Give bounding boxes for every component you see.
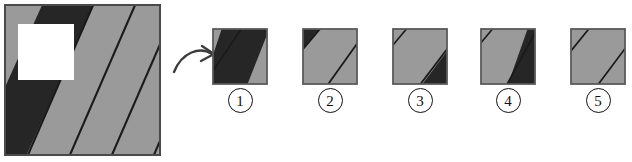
option-5-tile[interactable] xyxy=(570,28,626,85)
option-3-svg xyxy=(392,28,448,85)
option-3[interactable]: 3 xyxy=(392,28,448,85)
main-square-svg xyxy=(4,4,161,156)
option-4-tile[interactable] xyxy=(480,28,536,85)
option-2-tile[interactable] xyxy=(302,28,358,85)
white-cutout xyxy=(18,24,74,80)
pattern-puzzle: 1 2 xyxy=(0,0,632,162)
option-1[interactable]: 1 xyxy=(212,28,268,85)
option-4[interactable]: 4 xyxy=(480,28,536,85)
option-2[interactable]: 2 xyxy=(302,28,358,85)
main-striped-square xyxy=(4,4,161,156)
option-5[interactable]: 5 xyxy=(570,28,626,85)
option-5-number: 5 xyxy=(586,88,611,113)
option-4-number: 4 xyxy=(496,88,521,113)
option-3-tile[interactable] xyxy=(392,28,448,85)
arrow-shaft xyxy=(174,51,212,72)
option-5-gray xyxy=(570,28,626,85)
option-2-svg xyxy=(302,28,358,85)
option-4-svg xyxy=(480,28,536,85)
option-2-number: 2 xyxy=(318,88,343,113)
option-1-svg xyxy=(212,28,268,85)
option-2-label-wrap: 2 xyxy=(302,88,358,113)
option-5-svg xyxy=(570,28,626,85)
option-1-number: 1 xyxy=(228,88,253,113)
main-square-content xyxy=(4,4,161,156)
option-1-label-wrap: 1 xyxy=(212,88,268,113)
option-1-tile[interactable] xyxy=(212,28,268,85)
option-3-label-wrap: 3 xyxy=(392,88,448,113)
option-3-number: 3 xyxy=(408,88,433,113)
puzzle-stage: 1 2 xyxy=(0,0,632,162)
option-4-label-wrap: 4 xyxy=(480,88,536,113)
option-5-label-wrap: 5 xyxy=(570,88,626,113)
